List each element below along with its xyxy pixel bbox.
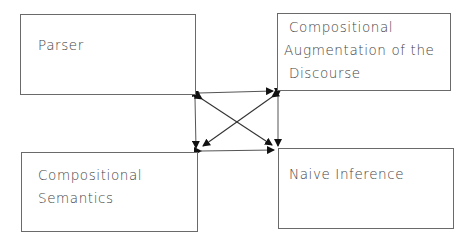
semantics-label-line-1: Compositional — [38, 164, 142, 187]
parser-box: Parser — [20, 14, 196, 95]
arrow-parser-semantics — [195, 98, 196, 148]
augmentation-label-line-2: Augmentation of the — [284, 39, 434, 62]
augmentation-box: Compositional Augmentation of the Discou… — [277, 13, 451, 91]
semantics-label-line-2: Semantics — [38, 187, 114, 210]
arrow-parser-augmentation — [199, 91, 273, 93]
semantics-box: Compositional Semantics — [21, 152, 198, 232]
inference-box: Naive Inference — [278, 148, 454, 229]
augmentation-label-line-1: Compositional — [289, 16, 393, 39]
parser-label: Parser — [38, 34, 84, 57]
arrow-semantics-inference — [201, 150, 274, 151]
augmentation-label-line-3: Discourse — [289, 62, 361, 85]
inference-label: Naive Inference — [289, 163, 404, 186]
